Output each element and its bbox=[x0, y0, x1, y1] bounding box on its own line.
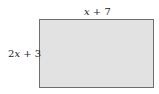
height-label: 2x + 3 bbox=[8, 49, 41, 59]
width-label: x + 7 bbox=[84, 7, 111, 17]
rectangle bbox=[39, 19, 154, 88]
height-constant: + 3 bbox=[20, 48, 41, 59]
width-constant: + 7 bbox=[90, 6, 111, 17]
